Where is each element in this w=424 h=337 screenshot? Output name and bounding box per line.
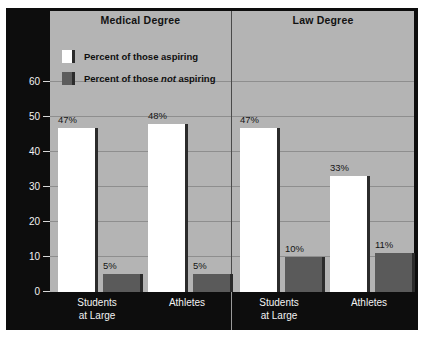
legend-swatch-dark-icon [62, 72, 75, 85]
x-label-line1: Athletes [142, 297, 232, 310]
y-tick-mark-50 [43, 116, 50, 117]
bar-label-medical-students-not-aspiring: 5% [103, 260, 117, 271]
gridline-40 [50, 151, 414, 152]
legend-item-not-aspiring: Percent of those not aspiring [62, 71, 215, 85]
bar-label-medical-students-aspiring: 47% [58, 114, 77, 125]
bar-label-law-athletes-not-aspiring: 11% [375, 239, 393, 250]
bar-law-students-not-aspiring [285, 257, 322, 292]
legend-swatch-white-icon [62, 50, 75, 63]
bar-label-medical-athletes-not-aspiring: 5% [193, 260, 207, 271]
bar-law-athletes-not-aspiring [375, 253, 412, 292]
legend-label-aspiring-suffix: aspiring [161, 51, 198, 62]
bar-label-law-students-aspiring: 47% [240, 114, 259, 125]
legend-label-aspiring: Percent of those aspiring [84, 51, 198, 62]
legend-label-not-aspiring: Percent of those not aspiring [84, 73, 215, 84]
x-label-law-students-at-large: Students at Large [234, 297, 324, 322]
bar-label-medical-athletes-aspiring: 48% [148, 110, 167, 121]
y-tick-mark-20 [43, 221, 50, 222]
bar-medical-athletes-aspiring [148, 124, 185, 292]
legend-label-not-aspiring-suffix: aspiring [176, 73, 216, 84]
panel-divider [231, 11, 232, 292]
x-label-medical-students-at-large: Students at Large [52, 297, 142, 322]
x-label-law-athletes: Athletes [324, 297, 414, 310]
x-label-medical-athletes: Athletes [142, 297, 232, 310]
x-label-line1: Athletes [324, 297, 414, 310]
bar-label-law-athletes-aspiring: 33% [330, 162, 349, 173]
bar-law-athletes-aspiring [330, 176, 367, 292]
gridline-50 [50, 116, 414, 117]
legend-label-aspiring-text: Percent of those [84, 51, 161, 62]
y-tick-label-60: 60 [10, 76, 40, 87]
legend-item-aspiring: Percent of those aspiring [62, 49, 215, 63]
y-tick-mark-10 [43, 256, 50, 257]
y-tick-label-10: 10 [10, 251, 40, 262]
y-tick-label-40: 40 [10, 146, 40, 157]
panel-title-medical: Medical Degree [50, 14, 231, 26]
bar-medical-athletes-not-aspiring [193, 274, 230, 292]
x-label-line2: at Large [234, 310, 324, 323]
x-label-line2: at Large [52, 310, 142, 323]
chart-container: Percent of Students Earning Degree 60 50… [0, 0, 424, 337]
legend-label-not-aspiring-text: Percent of those [84, 73, 161, 84]
y-tick-mark-30 [43, 186, 50, 187]
chart-legend: Percent of those aspiring Percent of tho… [62, 49, 215, 93]
y-tick-mark-40 [43, 151, 50, 152]
bar-medical-students-aspiring [58, 128, 95, 292]
legend-label-not-emphasis: not [161, 73, 176, 84]
y-tick-label-50: 50 [10, 111, 40, 122]
y-tick-mark-0 [43, 291, 50, 292]
bar-law-students-aspiring [240, 128, 277, 292]
y-tick-label-0: 0 [10, 286, 40, 297]
panel-title-law: Law Degree [232, 14, 414, 26]
y-tick-mark-60 [43, 81, 50, 82]
x-label-line1: Students [234, 297, 324, 310]
x-label-line1: Students [52, 297, 142, 310]
plot-area: Medical Degree Law Degree Percent of tho… [50, 11, 414, 292]
bar-label-law-students-not-aspiring: 10% [285, 243, 304, 254]
y-tick-label-20: 20 [10, 216, 40, 227]
bar-medical-students-not-aspiring [103, 274, 140, 292]
y-tick-label-30: 30 [10, 181, 40, 192]
